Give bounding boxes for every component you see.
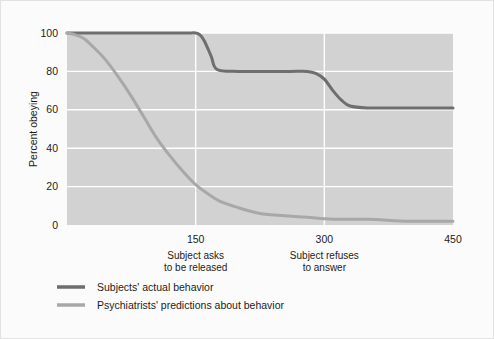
legend-label: Subjects' actual behavior xyxy=(97,281,214,293)
line-chart: 020406080100 150300450 Percent obeying S… xyxy=(1,1,494,339)
annotation-line2: to be released xyxy=(164,262,227,273)
legend-item-2: Psychiatrists' predictions about behavio… xyxy=(57,299,285,311)
annotation-line1: Subject refuses xyxy=(290,250,359,261)
plot-area-background xyxy=(67,33,453,225)
x-tick-150: 150 xyxy=(187,233,205,245)
chart-legend: Subjects' actual behaviorPsychiatrists' … xyxy=(57,281,285,311)
y-axis-tick-labels: 020406080100 xyxy=(40,27,58,231)
y-tick-20: 20 xyxy=(46,180,58,192)
x-tick-300: 300 xyxy=(316,233,334,245)
annotation-line2: to answer xyxy=(303,262,347,273)
y-tick-100: 100 xyxy=(40,27,58,39)
y-axis-title: Percent obeying xyxy=(27,91,39,167)
y-tick-40: 40 xyxy=(46,142,58,154)
legend-item-1: Subjects' actual behavior xyxy=(57,281,214,293)
x-axis-tick-labels: 150300450 xyxy=(187,233,462,245)
chart-figure: 020406080100 150300450 Percent obeying S… xyxy=(0,0,494,339)
x-axis-annotations: Subject asksto be releasedSubject refuse… xyxy=(164,250,359,273)
y-tick-0: 0 xyxy=(52,219,58,231)
y-tick-60: 60 xyxy=(46,103,58,115)
x-tick-450: 450 xyxy=(444,233,462,245)
annotation-2: Subject refusesto answer xyxy=(290,250,359,273)
annotation-1: Subject asksto be released xyxy=(164,250,227,273)
legend-label: Psychiatrists' predictions about behavio… xyxy=(97,299,285,311)
annotation-line1: Subject asks xyxy=(167,250,224,261)
y-tick-80: 80 xyxy=(46,65,58,77)
